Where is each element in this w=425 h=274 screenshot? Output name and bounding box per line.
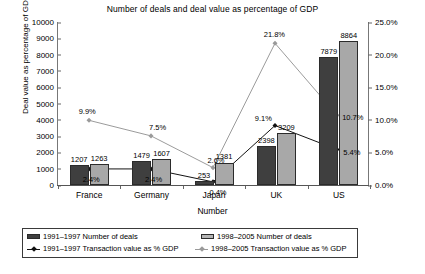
legend-item: 1998–2005 Transaction value as % GDP	[195, 244, 347, 253]
bar-value-label: 1607	[153, 149, 170, 158]
y-axis-left-tick: 1000	[36, 164, 58, 173]
y-axis-left-title: Deal value as percentage of GDP	[21, 0, 30, 140]
y-axis-left-tick: 4000	[36, 115, 58, 124]
line-point-label: 10.7%	[342, 113, 363, 122]
line-point-label: 21.8%	[264, 29, 285, 38]
bar-value-label: 8864	[340, 31, 357, 40]
line-point-label: 9.9%	[79, 107, 96, 116]
legend-item: 1991–1997 Transaction value as % GDP	[27, 244, 179, 253]
legend-label: 1998–2005 Number of deals	[217, 232, 312, 241]
legend-bar-swatch	[201, 234, 214, 239]
bar	[257, 146, 276, 185]
y-axis-right-tick: 20.0%	[368, 50, 398, 59]
legend-label: 1998–2005 Transaction value as % GDP	[211, 244, 347, 253]
x-axis-tick-label: Germany	[134, 185, 169, 200]
line-point-label: 9.1%	[255, 113, 272, 122]
y-axis-right-tick: 0.0%	[368, 181, 393, 190]
y-axis-left-tick: 8000	[36, 50, 58, 59]
line-marker	[86, 118, 91, 123]
line-series	[89, 43, 337, 167]
bar	[215, 163, 234, 186]
line-point-label: 2.4%	[145, 175, 162, 184]
bar-value-label: 253	[198, 171, 211, 180]
bar-value-label: 1479	[133, 151, 150, 160]
plot-area: 0100020003000400050006000700080009000100…	[57, 22, 369, 185]
line-point-label: 2.6%	[207, 156, 224, 165]
x-axis-tick-label: France	[76, 185, 102, 200]
line-point-label: 0.4%	[209, 188, 226, 197]
legend-line-swatch	[27, 246, 40, 252]
bar	[277, 133, 296, 185]
y-axis-right-tick: 10.0%	[368, 115, 398, 124]
bar	[319, 57, 338, 185]
y-axis-left-tick: 6000	[36, 83, 58, 92]
line-point-label: 7.5%	[149, 123, 166, 132]
line-point-label: 2.4%	[83, 175, 100, 184]
chart-legend: 1991–1997 Number of deals1998–2005 Numbe…	[22, 228, 358, 258]
bar-value-label: 7879	[320, 47, 337, 56]
legend-item: 1998–2005 Number of deals	[201, 232, 312, 241]
legend-label: 1991–1997 Transaction value as % GDP	[43, 244, 179, 253]
y-axis-left-tick: 9000	[36, 34, 58, 43]
y-axis-left-tick: 10000	[32, 18, 58, 27]
y-axis-left-tick: 7000	[36, 66, 58, 75]
chart-root: Number of deals and deal value as percen…	[0, 0, 425, 274]
bar-value-label: 2398	[258, 136, 275, 145]
x-axis-tick-mark	[370, 185, 371, 189]
line-series	[89, 126, 337, 182]
line-marker	[148, 133, 153, 138]
y-axis-left-tick: 2000	[36, 148, 58, 157]
x-axis-title: Number	[0, 206, 425, 216]
legend-bar-swatch	[27, 234, 40, 239]
legend-item: 1991–1997 Number of deals	[27, 232, 138, 241]
legend-line-swatch	[195, 246, 208, 252]
bar-value-label: 1207	[71, 155, 88, 164]
y-axis-left-tick: 3000	[36, 132, 58, 141]
chart-title: Number of deals and deal value as percen…	[0, 4, 425, 14]
y-axis-left-tick: 5000	[36, 99, 58, 108]
y-axis-right-tick: 25.0%	[368, 18, 398, 27]
x-axis-tick-label: UK	[270, 185, 282, 200]
x-axis-line	[57, 185, 369, 186]
line-point-label: 5.4%	[343, 147, 360, 156]
y-axis-right-tick: 15.0%	[368, 83, 398, 92]
bar-value-label: 3209	[278, 123, 295, 132]
legend-label: 1991–1997 Number of deals	[43, 232, 138, 241]
x-axis-tick-label: US	[333, 185, 345, 200]
bar-value-label: 1263	[91, 154, 108, 163]
y-axis-right-tick: 5.0%	[368, 148, 393, 157]
